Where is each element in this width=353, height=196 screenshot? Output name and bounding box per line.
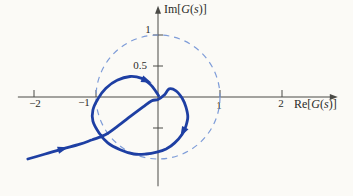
x-tick-label--1: −1 bbox=[78, 96, 90, 108]
y-tick-label-0.5: 0.5 bbox=[133, 59, 147, 71]
y-axis-title: Im[G(s)] bbox=[164, 2, 207, 16]
y-axis-arrow-icon bbox=[155, 6, 161, 14]
nyquist-plot-svg: −2−11210.5Im[G(s)]Re[G(s)] bbox=[0, 0, 353, 196]
y-tick-label-1: 1 bbox=[145, 23, 151, 35]
x-axis-title: Re[G(s)] bbox=[294, 97, 337, 111]
nyquist-curve bbox=[28, 76, 188, 159]
nyquist-figure: −2−11210.5Im[G(s)]Re[G(s)] bbox=[0, 0, 353, 196]
x-tick-label-2: 2 bbox=[278, 97, 284, 109]
x-tick-label--2: −2 bbox=[29, 97, 41, 109]
